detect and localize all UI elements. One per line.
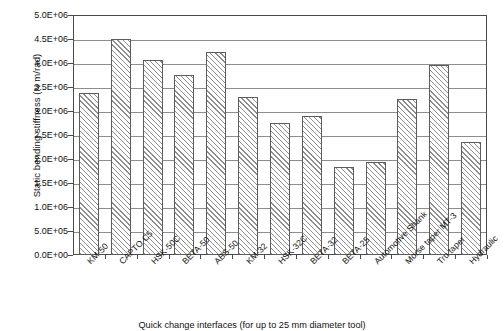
y-tick-label: 4.5E+06: [12, 34, 68, 44]
x-tick-mark: [360, 255, 361, 259]
bar: [174, 75, 194, 255]
y-tick-label: 2.0E+06: [12, 154, 68, 164]
x-tick-mark: [105, 255, 106, 259]
bar: [270, 123, 290, 255]
y-tick-label: 3.5E+06: [12, 82, 68, 92]
y-tick-label: 5.0E+06: [12, 10, 68, 20]
bar: [238, 97, 258, 255]
y-tick-label: 5.0E+05: [12, 226, 68, 236]
x-tick-mark: [455, 255, 456, 259]
x-tick-mark: [137, 255, 138, 259]
x-tick-mark: [487, 255, 488, 259]
y-tick-label: 4.0E+06: [12, 58, 68, 68]
x-tick-mark: [296, 255, 297, 259]
bar: [206, 52, 226, 255]
x-tick-mark: [169, 255, 170, 259]
y-tick-label: 1.5E+06: [12, 178, 68, 188]
bar: [79, 93, 99, 255]
y-tick-mark: [68, 255, 73, 256]
bar: [302, 116, 322, 255]
x-tick-mark: [232, 255, 233, 259]
x-tick-mark: [328, 255, 329, 259]
x-tick-mark: [264, 255, 265, 259]
x-tick-mark: [423, 255, 424, 259]
y-tick-label: 0.0E+00: [12, 250, 68, 260]
y-tick-label: 1.0E+06: [12, 202, 68, 212]
bar: [111, 39, 131, 255]
y-tick-label: 3.0E+06: [12, 106, 68, 116]
x-tick-mark: [391, 255, 392, 259]
bar-chart: Static bending stiffness (N m/rad) 0.0E+…: [0, 0, 504, 331]
y-tick-label: 2.5E+06: [12, 130, 68, 140]
x-tick-mark: [200, 255, 201, 259]
bar: [143, 60, 163, 255]
x-axis-title: Quick change interfaces (for up to 25 mm…: [0, 320, 504, 330]
